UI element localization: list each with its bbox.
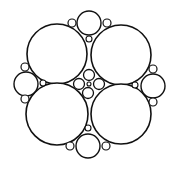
small-circle-top-right [103,19,111,27]
medium-circle-right [141,74,165,98]
center-circle-tiny [87,82,91,86]
small-circle-left-bottom [21,95,29,103]
small-circle-top-left [68,19,76,27]
small-circle-right-top [149,65,157,73]
small-circle-bottom-left [66,142,74,150]
small-circle-right-bottom [149,98,157,106]
medium-circle-bottom [76,134,100,158]
tiny-circle-left [40,80,46,86]
medium-circle-left [14,72,38,96]
tiny-circle-right [132,82,138,88]
tiny-circle-bottom [85,125,91,131]
large-circle-top-right [91,25,151,85]
medium-circle-top [77,11,101,35]
center-circle-left [74,79,85,90]
circle-packing-diagram [0,0,177,172]
large-circle-top-left [27,24,87,84]
center-circle-right [94,79,105,90]
large-circle-bottom-right [91,84,151,144]
small-circle-bottom-right [102,142,110,150]
center-circle-top [84,70,95,81]
tiny-circle-top [86,36,92,42]
center-circle-bottom [83,88,94,99]
small-circle-left-top [21,63,29,71]
